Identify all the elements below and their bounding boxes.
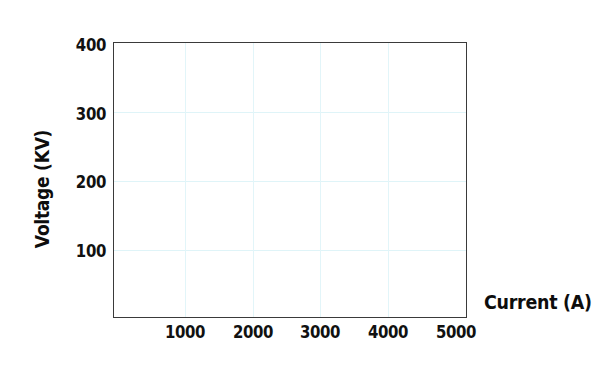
- plot-area: [113, 42, 467, 318]
- gridline-horizontal-300: [114, 112, 466, 113]
- y-tick-label-300: 300: [66, 104, 106, 124]
- x-tick-label-1000: 1000: [157, 322, 213, 342]
- x-tick-label-5000: 5000: [428, 322, 484, 342]
- chart-title-fragment: [150, 0, 470, 5]
- gridline-vertical-1000: [185, 43, 186, 317]
- chart-figure: 400 300 200 100 1000 2000 3000 4000 5000…: [0, 0, 613, 367]
- x-tick-label-2000: 2000: [225, 322, 281, 342]
- gridline-horizontal-100: [114, 250, 466, 251]
- x-axis-title: Current (A): [484, 291, 592, 313]
- x-tick-label-3000: 3000: [292, 322, 348, 342]
- x-tick-label-4000: 4000: [360, 322, 416, 342]
- gridline-vertical-4000: [388, 43, 389, 317]
- y-tick-label-200: 200: [66, 172, 106, 192]
- gridline-horizontal-200: [114, 181, 466, 182]
- y-axis-title: Voltage (KV): [31, 117, 53, 261]
- gridline-vertical-3000: [320, 43, 321, 317]
- gridline-vertical-2000: [253, 43, 254, 317]
- y-tick-label-100: 100: [66, 241, 106, 261]
- y-tick-label-400: 400: [66, 35, 106, 55]
